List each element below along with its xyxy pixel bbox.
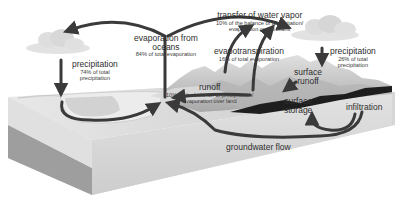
label-evapotranspiration: evapotranspiration 16% of total evaporat… [214, 47, 284, 62]
label-sub: evaporation over oceans [216, 27, 303, 33]
label-title-line2: oceans [134, 43, 198, 52]
label-title: evapotranspiration [214, 47, 284, 56]
label-title: groundwater flow [226, 143, 291, 152]
label-transfer-vapor: transfer of water vapor 10% of the balan… [216, 11, 303, 33]
label-sub: precipitation [330, 63, 376, 69]
label-runoff: runoff 10% of the balance of precipitati… [166, 83, 253, 105]
label-sub: 16% of total evaporation [214, 57, 284, 63]
label-title-line2: runoff [294, 77, 322, 86]
label-title: runoff [166, 83, 253, 92]
water-cycle-diagram: evaporation from oceans 84% of total eva… [0, 0, 396, 201]
label-surface-storage: surface storage [284, 97, 312, 114]
label-precipitation-ocean: precipitation 74% of total precipitation [72, 60, 118, 82]
label-title: precipitation [72, 60, 118, 69]
label-sub: precipitation [72, 76, 118, 82]
label-precipitation-land: precipitation 26% of total precipitation [330, 47, 376, 69]
label-title: transfer of water vapor [216, 11, 303, 20]
label-title: precipitation [330, 47, 376, 56]
label-sub: evaporation over land [166, 99, 253, 105]
label-infiltration: infiltration [346, 103, 382, 112]
label-surface-runoff: surface runoff [294, 68, 322, 85]
cloud-left [26, 29, 90, 54]
label-evaporation-oceans: evaporation from oceans 84% of total eva… [134, 34, 198, 58]
label-title: infiltration [346, 103, 382, 112]
label-groundwater-flow: groundwater flow [226, 143, 291, 152]
label-sub: 84% of total evaporation [134, 52, 198, 58]
label-title-line2: storage [284, 106, 312, 115]
